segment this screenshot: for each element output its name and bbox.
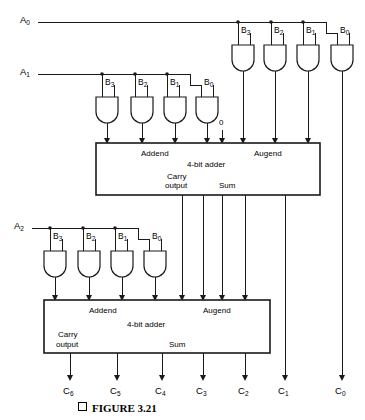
adder-1-carry-label-1: Carry — [167, 173, 187, 181]
output-label-c2: C2 — [238, 386, 249, 396]
output-label-c3: C3 — [196, 386, 207, 396]
input-label-a2-b3: B3 — [53, 232, 62, 241]
input-label-a0-b3: B3 — [241, 26, 250, 35]
adder-2-carry-label-2: output — [56, 341, 78, 349]
adder-1-sum-label: Sum — [219, 182, 235, 190]
input-label-a0-b2: B2 — [274, 26, 283, 35]
adder-2-carry-label-1: Carry — [58, 331, 78, 339]
constant-zero-label: 0 — [219, 119, 223, 127]
figure-caption-text: FIGURE 3.21 — [92, 402, 157, 414]
input-label-a2: A2 — [14, 221, 24, 231]
a0-and-gates — [232, 45, 353, 71]
figure-caption: FIGURE 3.21 — [78, 402, 157, 414]
adder-1-addend-label: Addend — [141, 150, 169, 158]
input-label-a2-b1: B1 — [118, 232, 127, 241]
a0-row-b-drops — [250, 33, 349, 45]
a1-gate-outputs — [104, 123, 210, 144]
output-label-c0: C0 — [335, 386, 346, 396]
a0-bus — [38, 20, 337, 45]
caption-square-icon — [78, 402, 87, 411]
adder-2-addend-label: Addend — [89, 307, 117, 315]
input-label-a1-b0: B0 — [204, 78, 213, 87]
output-label-c5: C5 — [110, 386, 121, 396]
input-label-a1-b1: B1 — [170, 78, 179, 87]
a2-gate-outputs — [52, 277, 158, 301]
constant-zero-wire — [219, 130, 225, 144]
input-label-a0-b1: B1 — [306, 26, 315, 35]
adder-1-title: 4-bit adder — [187, 161, 225, 169]
output-label-c6: C6 — [63, 386, 74, 396]
input-label-a0-b0: B0 — [340, 26, 349, 35]
a2-row-b-drops — [62, 239, 161, 251]
a1-row-b-drops — [114, 85, 213, 97]
adder-2-sum-label: Sum — [169, 341, 185, 349]
a2-and-gates — [44, 251, 166, 277]
adder-2-outputs — [67, 353, 345, 381]
adder-2-augend-label: Augend — [203, 307, 231, 315]
input-label-a0: A0 — [20, 15, 30, 25]
input-label-a2-b0: B0 — [152, 232, 161, 241]
adder-1-box — [96, 143, 320, 195]
input-label-a1: A1 — [20, 67, 30, 77]
circuit-svg — [0, 0, 365, 420]
input-label-a2-b2: B2 — [86, 232, 95, 241]
figure-canvas: A0 A1 A2 B3 B2 B1 B0 B3 B2 B1 B0 B3 B2 B… — [0, 0, 365, 420]
input-label-a1-b3: B3 — [105, 78, 114, 87]
adder-1-carry-label-2: output — [165, 182, 187, 190]
adder-2-title: 4-bit adder — [127, 321, 165, 329]
output-label-c1: C1 — [278, 386, 289, 396]
a1-and-gates — [96, 97, 218, 123]
input-label-a1-b2: B2 — [138, 78, 147, 87]
adder-1-augend-label: Augend — [254, 150, 282, 158]
output-label-c4: C4 — [155, 386, 166, 396]
